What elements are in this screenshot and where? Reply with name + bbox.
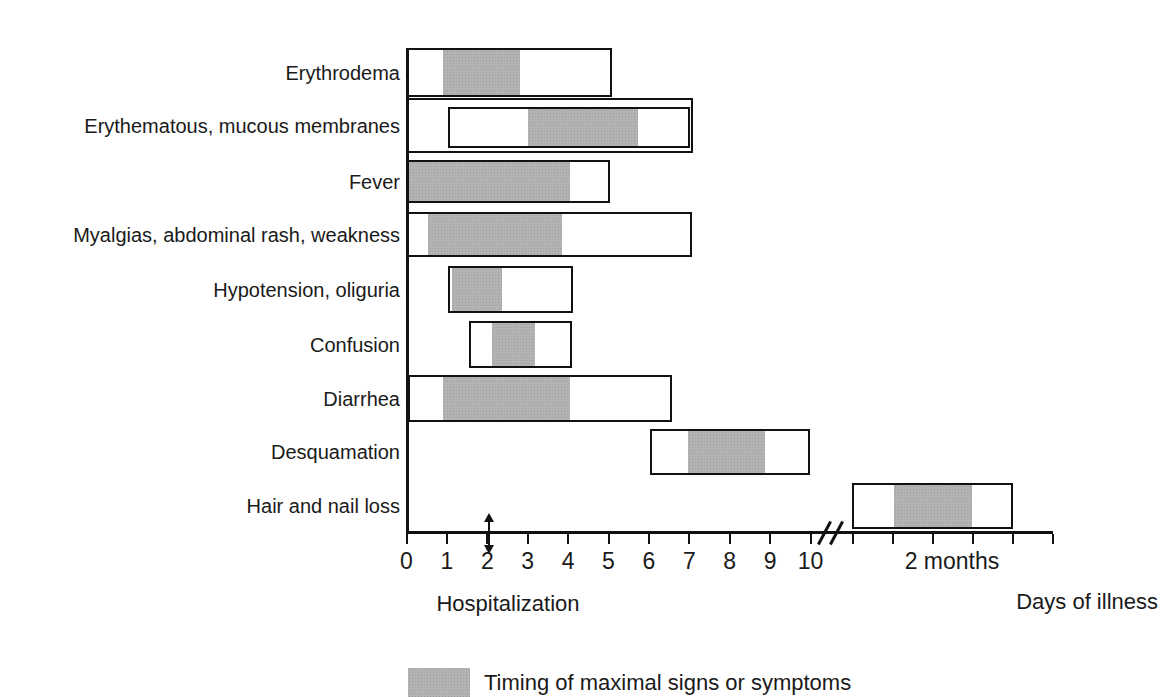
x-axis-tick — [852, 534, 854, 544]
row-label: Erythematous, mucous membranes — [84, 115, 400, 137]
maximal-period-fill — [409, 162, 571, 201]
x-axis-tick-label: 4 — [546, 549, 590, 573]
row-label: Confusion — [310, 334, 400, 356]
duration-bar — [650, 429, 810, 475]
x-axis-tick-label: 7 — [667, 549, 711, 573]
row-label: Hair and nail loss — [247, 495, 400, 517]
maximal-period-fill — [528, 109, 638, 146]
duration-bar — [469, 321, 572, 368]
maximal-period-fill — [492, 323, 535, 366]
x-axis-tick-label: 6 — [627, 549, 671, 573]
x-axis-tick — [527, 534, 529, 544]
x-axis-tick — [648, 534, 650, 544]
x-axis-title: Days of illness — [1016, 590, 1158, 614]
x-axis-tick — [608, 534, 610, 544]
x-axis-tick-label: 3 — [506, 549, 550, 573]
x-axis-tick — [688, 534, 690, 544]
row-label: Erythrodema — [286, 62, 401, 84]
hospitalization-arrow — [488, 521, 490, 545]
maximal-period-fill — [452, 268, 502, 311]
row-label: Hypotension, oliguria — [213, 279, 400, 301]
x-axis-tick — [972, 534, 974, 544]
x-axis-tick — [567, 534, 569, 544]
x-axis-tick — [1052, 534, 1054, 544]
legend-label: Timing of maximal signs or symptoms — [484, 670, 851, 695]
duration-bar — [408, 375, 672, 422]
x-axis-tick-label: 10 — [789, 549, 833, 573]
x-axis-tick — [769, 534, 771, 544]
two-months-label: 2 months — [892, 549, 1012, 573]
x-axis-tick — [1012, 534, 1014, 544]
legend-swatch — [408, 668, 470, 697]
maximal-period-fill — [894, 485, 972, 527]
symptom-timeline-figure: ErythrodemaErythematous, mucous membrane… — [0, 0, 1164, 697]
row-label: Fever — [349, 171, 400, 193]
x-axis-tick — [892, 534, 894, 544]
duration-bar — [407, 48, 613, 97]
row-label: Desquamation — [271, 441, 400, 463]
x-axis-tick-label: 9 — [748, 549, 792, 573]
duration-bar — [407, 212, 693, 257]
duration-bar — [448, 266, 573, 313]
duration-bar — [852, 483, 1013, 529]
row-label: Diarrhea — [323, 388, 400, 410]
duration-bar — [448, 107, 690, 148]
x-axis-tick-label: 8 — [708, 549, 752, 573]
hospitalization-arrow-up-head — [484, 513, 494, 522]
maximal-period-fill — [443, 50, 520, 95]
x-axis-tick — [446, 534, 448, 544]
maximal-period-fill — [443, 377, 570, 420]
hospitalization-arrow-down-head — [484, 545, 494, 554]
x-axis-tick — [406, 534, 408, 544]
maximal-period-fill — [688, 431, 765, 473]
maximal-period-fill — [428, 214, 562, 255]
x-axis-tick — [729, 534, 731, 544]
x-axis-tick-label: 0 — [385, 549, 429, 573]
duration-bar — [407, 160, 611, 203]
x-axis-tick — [932, 534, 934, 544]
row-label: Myalgias, abdominal rash, weakness — [73, 224, 400, 246]
x-axis-tick — [810, 534, 812, 544]
x-axis-tick-label: 5 — [587, 549, 631, 573]
x-axis-tick-label: 1 — [425, 549, 469, 573]
hospitalization-label: Hospitalization — [408, 592, 608, 616]
